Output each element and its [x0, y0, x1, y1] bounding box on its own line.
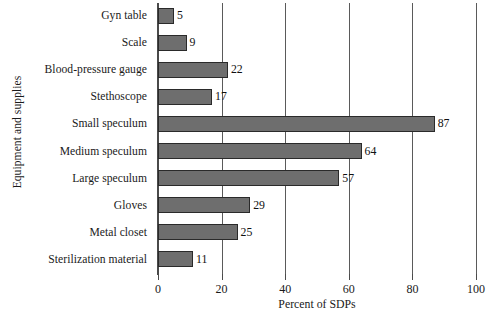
x-axis-tick-labels: 020406080100 [0, 281, 488, 297]
category-label: Gloves [114, 193, 147, 220]
x-axis-tick-label: 20 [202, 281, 242, 297]
bar-row: 25 [158, 220, 476, 247]
bar-row: 29 [158, 193, 476, 220]
category-label: Medium speculum [60, 139, 147, 166]
category-label: Sterilization material [48, 247, 147, 274]
bar [158, 224, 238, 240]
category-label: Large speculum [72, 166, 147, 193]
bar-value-label: 25 [241, 220, 253, 247]
bar-value-label: 5 [177, 3, 183, 30]
plot-area: 592217876457292511 [158, 3, 476, 274]
category-axis-labels: Gyn tableScaleBlood-pressure gaugeStetho… [0, 3, 152, 274]
bar-value-label: 22 [231, 57, 243, 84]
x-axis-tick [349, 274, 350, 280]
bar [158, 89, 212, 105]
bar-row: 11 [158, 247, 476, 274]
bar [158, 170, 339, 186]
bar-value-label: 9 [190, 30, 196, 57]
x-axis-tick [412, 274, 413, 280]
x-axis-tick [476, 274, 477, 280]
bar-row: 5 [158, 3, 476, 30]
bar-value-label: 57 [342, 166, 354, 193]
x-axis-tick-label: 80 [392, 281, 432, 297]
x-axis-tick [158, 274, 159, 280]
bar [158, 197, 250, 213]
bar-value-label: 64 [365, 139, 377, 166]
bar-value-label: 17 [215, 84, 227, 111]
x-axis-tick-label: 40 [265, 281, 305, 297]
category-label: Metal closet [89, 220, 147, 247]
category-label: Blood-pressure gauge [45, 57, 147, 84]
bar-row: 9 [158, 30, 476, 57]
bar-value-label: 29 [253, 193, 265, 220]
bar-row: 57 [158, 166, 476, 193]
x-axis-ticks [158, 274, 476, 281]
category-label: Stethoscope [90, 84, 147, 111]
gridline [476, 3, 477, 274]
bar [158, 143, 362, 159]
x-axis-tick-label: 0 [138, 281, 178, 297]
bar [158, 8, 174, 24]
bar-row: 22 [158, 57, 476, 84]
bar [158, 62, 228, 78]
bar [158, 116, 435, 132]
bar [158, 35, 187, 51]
bar-row: 87 [158, 111, 476, 138]
bar-row: 17 [158, 84, 476, 111]
x-axis-tick-label: 100 [456, 281, 488, 297]
bar-chart: Equipment and supplies Gyn tableScaleBlo… [0, 0, 488, 314]
x-axis-tick [222, 274, 223, 280]
x-axis-tick-label: 60 [329, 281, 369, 297]
category-label: Scale [122, 30, 147, 57]
x-axis-title: Percent of SDPs [158, 297, 476, 312]
bar-value-label: 87 [438, 111, 450, 138]
bar-value-label: 11 [196, 247, 207, 274]
category-label: Gyn table [101, 3, 147, 30]
x-axis-tick [285, 274, 286, 280]
bar [158, 251, 193, 267]
category-label: Small speculum [72, 111, 147, 138]
bar-row: 64 [158, 139, 476, 166]
